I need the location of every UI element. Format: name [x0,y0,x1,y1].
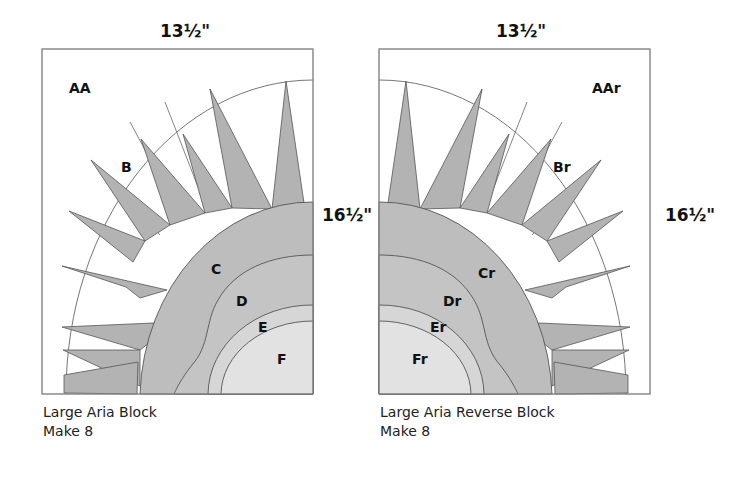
piece-label-c: C [211,261,221,277]
piece-label-e: E [258,319,268,335]
right-height-dimension: 16½" [665,205,715,225]
right-block-diagram [379,49,650,394]
piece-label-d: D [236,293,248,309]
left-height-dimension: 16½" [322,205,372,225]
left-caption-title: Large Aria Block [43,403,157,422]
right-caption-quantity: Make 8 [380,422,555,441]
piece-label-aa: AA [69,80,91,96]
piece-label-f: F [277,351,287,367]
left-caption: Large Aria Block Make 8 [43,403,157,441]
right-caption: Large Aria Reverse Block Make 8 [380,403,555,441]
piece-label-dr: Dr [443,293,462,309]
left-width-dimension: 13½" [160,21,210,41]
piece-label-br: Br [553,159,571,175]
left-caption-quantity: Make 8 [43,422,157,441]
piece-label-aar: AAr [592,80,621,96]
piece-label-er: Er [430,319,447,335]
piece-label-fr: Fr [412,351,428,367]
piece-label-b: B [121,159,132,175]
piece-label-cr: Cr [478,265,495,281]
left-block-diagram [42,49,313,394]
right-caption-title: Large Aria Reverse Block [380,403,555,422]
right-width-dimension: 13½" [496,21,546,41]
